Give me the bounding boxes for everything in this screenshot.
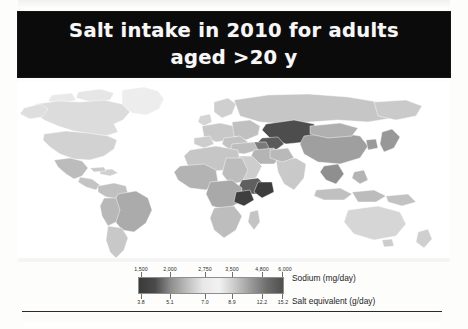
- legend-tick-up-2: [205, 272, 206, 277]
- region-antarctic-edge: [18, 258, 450, 262]
- legend-sodium-tick-5: 6,000: [278, 266, 291, 272]
- legend-salt-label: Salt equivalent (g/day): [292, 296, 375, 306]
- scan-artifact-bottom: [22, 314, 442, 327]
- legend-tick-up-3: [232, 272, 233, 277]
- legend-salt-tick-3: 8.9: [228, 299, 236, 305]
- world-map-panel: [18, 82, 450, 262]
- region-tasmania: [382, 239, 394, 247]
- legend-tick-up-5: [282, 272, 283, 277]
- legend-color-bar-wrap: [138, 277, 284, 294]
- legend-salt-tick-2: 7.0: [201, 299, 209, 305]
- legend-salt-tick-4: 12.2: [257, 299, 268, 305]
- legend-tick-up-1: [170, 272, 171, 277]
- figure-title-banner: Salt intake in 2010 for adults aged >20 …: [18, 12, 450, 77]
- legend-salt-tick-0: 3.8: [137, 299, 145, 305]
- world-choropleth-map: [18, 82, 450, 262]
- legend-tick-up-4: [262, 272, 263, 277]
- legend-tick-up-0: [141, 272, 142, 277]
- scan-artifact-top: [18, 0, 450, 7]
- region-korea: [366, 139, 378, 150]
- map-legend: 1,500 2,000 2,750 3,500 4,800 6,000 3.8 …: [136, 266, 436, 312]
- legend-color-bar: [138, 277, 284, 294]
- page-title: Salt intake in 2010 for adults aged >20 …: [18, 17, 450, 71]
- legend-salt-tick-1: 5.1: [166, 299, 174, 305]
- bottom-divider: [22, 311, 442, 312]
- legend-salt-tick-5: 15.2: [278, 299, 289, 305]
- figure-container: Salt intake in 2010 for adults aged >20 …: [0, 0, 468, 329]
- legend-sodium-label: Sodium (mg/day): [292, 273, 356, 283]
